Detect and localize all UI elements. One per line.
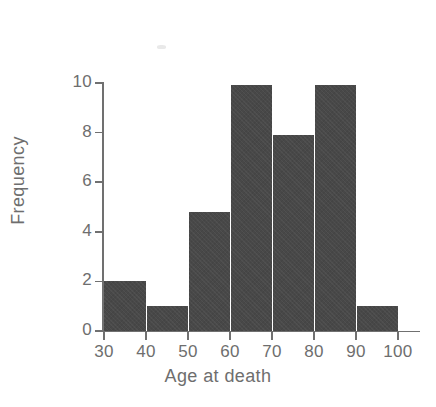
plot-area (104, 83, 398, 331)
x-axis-tick-mark (229, 331, 231, 340)
x-axis-tick-label: 80 (290, 342, 338, 362)
x-axis-tick-label: 60 (206, 342, 254, 362)
y-axis-tick-mark (95, 330, 103, 332)
y-axis-tick-mark (95, 281, 103, 283)
y-axis-tick-label: 2 (40, 270, 92, 290)
x-axis-tick-mark (187, 331, 189, 340)
x-axis-tick-label: 100 (374, 342, 422, 362)
scan-artifact-speck (157, 45, 166, 49)
x-axis-tick-mark (397, 331, 399, 340)
x-axis-tick-mark (355, 331, 357, 340)
x-axis-title: Age at death (0, 366, 436, 387)
y-axis-title: Frequency (8, 101, 29, 261)
y-axis-tick-mark (95, 181, 103, 183)
x-axis-tick-label: 90 (332, 342, 380, 362)
histogram-bar (314, 85, 356, 331)
y-axis-tick-label: 8 (40, 122, 92, 142)
y-axis-tick-label: 0 (40, 320, 92, 340)
histogram-bar (104, 281, 146, 331)
y-axis-tick-label: 10 (40, 72, 92, 92)
histogram-bar (188, 212, 230, 331)
x-axis-tick-mark (103, 331, 105, 340)
histogram-bar (146, 306, 188, 331)
y-axis-tick-label: 6 (40, 171, 92, 191)
y-axis-tick-mark (95, 132, 103, 134)
x-axis-tick-mark (271, 331, 273, 340)
y-axis-tick-label: 4 (40, 221, 92, 241)
histogram-bar (356, 306, 398, 331)
x-axis-tick-label: 50 (164, 342, 212, 362)
histogram-bar (272, 135, 314, 331)
x-axis-tick-label: 70 (248, 342, 296, 362)
histogram-bar (230, 85, 272, 331)
histogram-figure: 0246810 30405060708090100 Age at death F… (0, 0, 436, 407)
x-axis-tick-mark (313, 331, 315, 340)
x-axis-tick-label: 30 (80, 342, 128, 362)
y-axis-tick-mark (95, 82, 103, 84)
x-axis-tick-label: 40 (122, 342, 170, 362)
y-axis-tick-mark (95, 231, 103, 233)
x-axis-tick-mark (145, 331, 147, 340)
